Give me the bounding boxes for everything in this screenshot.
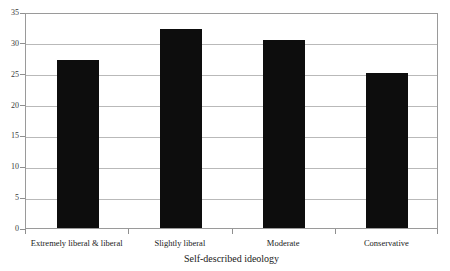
y-tick-label: 15 [11,132,19,140]
x-tick-label: Conservative [364,238,409,248]
y-axis: 05101520253035 [0,0,25,271]
bar [263,40,305,228]
y-tick-label: 10 [11,163,19,171]
bar [57,60,99,228]
y-tick-label: 5 [15,194,19,202]
x-tick-mark [128,229,129,234]
y-tick-label: 0 [15,225,19,233]
bar [366,73,408,228]
x-tick-mark [25,229,26,234]
x-tick-mark [335,229,336,234]
gridline [26,44,437,45]
cropped-title-remnant [25,0,225,5]
y-tick-label: 35 [11,9,19,17]
x-axis: Self-described ideology Extremely libera… [25,229,438,271]
y-tick-label: 25 [11,71,19,79]
plot-area [25,13,438,229]
x-tick-label: Extremely liberal & liberal [31,238,123,248]
x-tick-mark [232,229,233,234]
x-tick-label: Moderate [267,238,300,248]
x-tick-label: Slightly liberal [154,238,205,248]
y-tick-label: 20 [11,102,19,110]
x-axis-title: Self-described ideology [25,253,438,265]
bar-chart-figure: 05101520253035 Self-described ideology E… [0,0,450,271]
bar [160,29,202,228]
x-tick-mark [437,229,438,234]
y-tick-label: 30 [11,40,19,48]
